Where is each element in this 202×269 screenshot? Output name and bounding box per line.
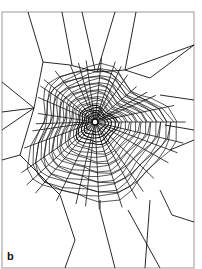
spider-web-drawing <box>0 0 202 269</box>
panel-label: b <box>7 251 14 262</box>
web-hub <box>92 119 98 125</box>
web-radial-threads <box>21 58 185 209</box>
spider-web-figure: b <box>0 0 202 269</box>
